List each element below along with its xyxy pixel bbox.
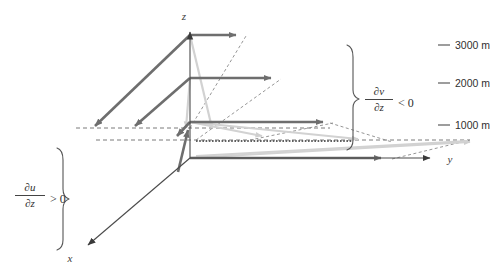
wind-shear-diagram: z y x ∂u ∂z > 0 ∂v ∂z < 0 3000 m 2000 m … [0, 0, 498, 278]
u-vector-3000 [95, 35, 190, 126]
du-dz-relation: > 0 [50, 192, 66, 206]
light-vector-1000-long [190, 122, 358, 139]
legend-item-2000: 2000 m [438, 77, 490, 89]
u-vector-surface [178, 130, 188, 172]
u-vector-2000 [135, 78, 190, 126]
legend-item-3000: 3000 m [438, 39, 490, 51]
z-axis-label: z [181, 10, 187, 22]
u-component-vectors [95, 35, 190, 172]
y-axis-label: y [447, 153, 453, 165]
annotation-dv-dz: ∂v ∂z < 0 [347, 45, 414, 150]
diagonal-dash-3000 [190, 36, 246, 128]
light-vector-surface [190, 142, 470, 158]
right-brace [347, 45, 359, 150]
light-vector-2000 [186, 78, 190, 128]
legend-label-2000: 2000 m [455, 77, 490, 89]
diagonal-dash-far-right [330, 123, 392, 142]
x-axis [88, 158, 190, 245]
du-dz-denominator: ∂z [25, 197, 35, 209]
light-vector-surface-upper [196, 141, 468, 156]
dv-dz-relation: < 0 [398, 96, 414, 110]
legend-label-1000: 1000 m [455, 119, 490, 131]
legend-label-3000: 3000 m [455, 39, 490, 51]
axes: z y x [67, 10, 453, 264]
light-vector-3000 [190, 35, 212, 128]
x-axis-label: x [67, 252, 73, 264]
du-dz-numerator: ∂u [25, 181, 36, 193]
legend-item-1000: 1000 m [438, 119, 490, 131]
dv-dz-denominator: ∂z [374, 101, 384, 113]
annotation-du-dz: ∂u ∂z > 0 [15, 148, 69, 250]
legend: 3000 m 2000 m 1000 m [438, 39, 490, 131]
dv-dz-numerator: ∂v [374, 85, 384, 97]
